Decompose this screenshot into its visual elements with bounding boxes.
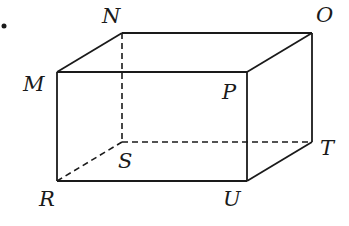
bullet-dot bbox=[2, 24, 7, 29]
edge-PO bbox=[247, 33, 312, 72]
edge-UT bbox=[247, 142, 312, 181]
edge-MN bbox=[57, 33, 122, 72]
vertex-label-N: N bbox=[101, 4, 121, 28]
hidden-edge-RS bbox=[57, 142, 122, 181]
vertex-label-U: U bbox=[223, 187, 242, 211]
rectangular-prism-diagram: N O M P S T R U bbox=[0, 0, 349, 226]
vertex-label-T: T bbox=[320, 136, 336, 160]
vertex-label-O: O bbox=[316, 3, 333, 27]
vertex-label-S: S bbox=[118, 149, 132, 173]
vertex-label-R: R bbox=[38, 187, 55, 211]
vertex-label-P: P bbox=[221, 80, 237, 104]
vertex-label-M: M bbox=[22, 72, 45, 96]
